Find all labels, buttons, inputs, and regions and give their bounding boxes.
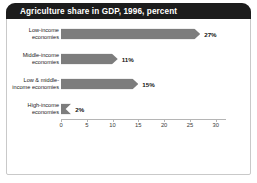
x-tick-label: 25	[187, 122, 193, 128]
category-label-line1: Middle-income	[23, 52, 59, 58]
x-tick-label: 0	[59, 122, 62, 128]
category-label-line1: Low & middle-	[24, 77, 59, 83]
bar-row-middle-income: Middle-income economies 11%	[6, 48, 251, 70]
x-axis-ticks: 051015202530	[6, 120, 251, 132]
bar-rows: Low-income economies 27% Middle-income e…	[6, 19, 251, 119]
category-label-line2: economies	[32, 109, 59, 115]
value-label-high-income: 2%	[75, 106, 84, 113]
bar-wrap-high-income: 2%	[61, 104, 84, 115]
bar-wrap-low-income: 27%	[61, 29, 217, 40]
value-label-low-and-middle-income: 15%	[142, 81, 154, 88]
chart-title: Agriculture share in GDP, 1996, percent	[20, 7, 177, 16]
category-label-middle-income: Middle-income economies	[6, 52, 59, 65]
bar-middle-income	[61, 54, 118, 65]
bar-row-low-income: Low-income economies 27%	[6, 23, 251, 45]
category-label-line2: economies	[32, 34, 59, 40]
category-label-line1: Low-income	[29, 27, 59, 33]
value-label-low-income: 27%	[204, 31, 216, 38]
x-tick-label: 30	[212, 122, 218, 128]
x-tick-label: 20	[161, 122, 167, 128]
x-tick-label: 10	[109, 122, 115, 128]
bar-wrap-middle-income: 11%	[61, 54, 134, 65]
category-label-low-income: Low-income economies	[6, 27, 59, 40]
chart-figure: Agriculture share in GDP, 1996, percent …	[0, 0, 257, 183]
bar-low-income	[61, 29, 200, 40]
category-label-high-income: High-income economies	[6, 102, 59, 115]
bar-high-income	[61, 104, 71, 115]
value-label-middle-income: 11%	[122, 56, 134, 63]
category-label-low-and-middle-income: Low & middle- income economies	[6, 77, 59, 90]
category-label-line2: income economies	[12, 84, 59, 90]
chart-title-bar: Agriculture share in GDP, 1996, percent	[6, 3, 251, 19]
x-tick-label: 5	[85, 122, 88, 128]
plot-area: Low-income economies 27% Middle-income e…	[6, 19, 251, 175]
category-label-line1: High-income	[28, 102, 59, 108]
category-label-line2: economies	[32, 59, 59, 65]
bar-wrap-low-and-middle-income: 15%	[61, 79, 155, 90]
bar-row-high-income: High-income economies 2%	[6, 98, 251, 120]
bar-low-and-middle-income	[61, 79, 138, 90]
bar-row-low-and-middle-income: Low & middle- income economies 15%	[6, 73, 251, 95]
x-tick-label: 15	[135, 122, 141, 128]
